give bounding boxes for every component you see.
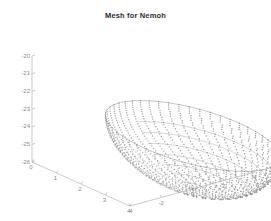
x-tick-label-1: 3: [103, 197, 106, 203]
z-tick-label-5: -25: [21, 141, 30, 147]
x-tick-label-3: 1: [54, 175, 57, 181]
y-tick-label-3: 2: [222, 183, 225, 189]
z-tick-label-2: -22: [21, 88, 30, 94]
y-tick-label-2: 0: [191, 191, 194, 197]
y-tick-label-4: 4: [253, 174, 256, 180]
z-tick-label-0: -20: [21, 53, 30, 59]
axes-lines: [0, 0, 271, 221]
y-tick-label-1: -2: [159, 200, 164, 206]
z-tick-label-1: -21: [21, 70, 30, 76]
y-tick-label-0: -4: [127, 208, 132, 214]
x-tick-label-2: 2: [78, 186, 81, 192]
x-tick-label-4: 0: [29, 164, 32, 170]
z-tick-label-3: -23: [21, 106, 30, 112]
matlab-figure-window: Mesh for Nemoh -20-21-22-23-24-25-264321…: [0, 0, 271, 221]
z-tick-label-4: -24: [21, 123, 30, 129]
